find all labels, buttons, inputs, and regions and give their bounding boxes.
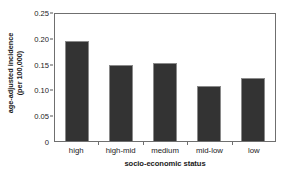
y-axis-tick-mark — [50, 116, 53, 117]
bar-slot — [99, 14, 143, 141]
bar-slot — [55, 14, 99, 141]
y-axis-tick-mark — [50, 90, 53, 91]
bar-slot — [187, 14, 231, 141]
y-axis-tick-mark — [50, 13, 53, 14]
x-axis-tick-label: mid-low — [187, 146, 231, 155]
bar-medium — [153, 63, 178, 141]
bar-mid-low — [197, 86, 222, 141]
y-axis-title-line-1: age-adjusted incidence — [6, 33, 15, 114]
y-axis-tick-labels: 00.050.100.150.200.25 — [26, 0, 53, 146]
y-axis-tick-label: 0.05 — [34, 112, 49, 121]
x-axis-tick-mark — [187, 142, 188, 145]
bar-low — [241, 78, 266, 142]
x-axis-tick-label: high-mid — [98, 146, 142, 155]
bar-chart-figure: age-adjusted incidence (per 100,000) 00.… — [0, 0, 291, 179]
y-axis-tick-label: 0.25 — [34, 9, 49, 18]
bar-slot — [231, 14, 275, 141]
bar-high — [65, 41, 90, 141]
x-axis-tick-mark — [98, 142, 99, 145]
x-axis-tick-mark — [232, 142, 233, 145]
y-axis-tick-label: 0.15 — [34, 60, 49, 69]
x-axis-tick-labels: highhigh-midmediummid-lowlow — [54, 146, 276, 155]
bar-slot — [143, 14, 187, 141]
y-axis-tick-mark — [50, 38, 53, 39]
y-axis-tick-label: 0.20 — [34, 34, 49, 43]
x-axis-tick-label: low — [232, 146, 276, 155]
y-axis-tick-label: 0.10 — [34, 86, 49, 95]
plot-area — [54, 13, 276, 142]
x-axis-tick-label: medium — [143, 146, 187, 155]
y-axis-tick-mark — [50, 64, 53, 65]
x-axis-title: socio-economic status — [54, 159, 276, 168]
y-axis-title-line-2: (per 100,000) — [15, 33, 24, 114]
bar-series — [55, 14, 275, 141]
x-axis-tick-label: high — [54, 146, 98, 155]
x-axis-tick-mark — [143, 142, 144, 145]
y-axis-tick-label: 0 — [45, 138, 49, 147]
bar-high-mid — [109, 65, 134, 141]
